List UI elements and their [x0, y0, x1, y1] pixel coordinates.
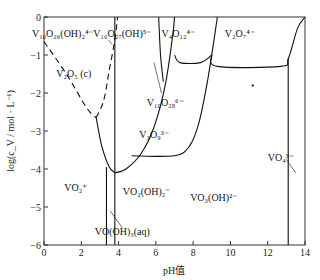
y-axis-title: log(c_V / mol · L⁻¹)	[5, 90, 17, 172]
region-label: VO₂⁺	[64, 182, 87, 193]
region-label: V₁₀O₂₈⁶⁻	[147, 97, 184, 108]
y-tick-label: −6	[30, 240, 41, 251]
x-tick-label: 10	[225, 247, 235, 258]
decavanadate-parabola-right	[115, 17, 175, 173]
y-tick-label: −2	[30, 88, 41, 99]
x-tick-label: 6	[153, 247, 158, 258]
y-tick-label: −5	[30, 202, 41, 213]
x-tick-label: 14	[300, 247, 310, 258]
region-label: VO₄³⁻	[268, 152, 294, 163]
region-label: V₁₀O₂₇(OH)⁵⁻	[93, 28, 151, 40]
x-tick-label: 0	[42, 247, 47, 258]
plot-frame	[44, 17, 305, 245]
x-tick-label: 12	[263, 247, 273, 258]
region-label: V₃O₉³⁻	[139, 129, 168, 140]
region-label: VO₃(OH)²⁻	[190, 192, 237, 204]
region-label: V₁₀O₂₆(OH)₂⁴⁻	[32, 28, 93, 40]
x-tick-label: 4	[116, 247, 121, 258]
region-label: VO₂(OH)₂⁻	[123, 186, 171, 198]
region-label: V₂O₇⁴⁻	[225, 28, 255, 39]
v2o7-lower-boundary	[211, 17, 305, 68]
boundaries	[44, 17, 305, 245]
region-labels: V₁₀O₂₆(OH)₂⁴⁻V₁₀O₂₇(OH)⁵⁻V₄O₁₂⁴⁻V₂O₇⁴⁻V₂…	[32, 28, 294, 238]
y-tick-label: 0	[36, 12, 41, 23]
y-tick-label: −3	[30, 126, 41, 137]
region-label: V₄O₁₂⁴⁻	[162, 28, 195, 39]
y-tick-label: −1	[30, 50, 41, 61]
region-label: VO(OH)₃(aq)	[95, 226, 150, 238]
axes: 024681012140−1−2−3−4−5−6	[30, 12, 310, 259]
v4o12-v10o28-boundary	[175, 55, 212, 64]
v10o27-v10o28-boundary	[159, 17, 164, 82]
dot-marker	[252, 84, 254, 86]
x-tick-label: 2	[79, 247, 84, 258]
y-tick-label: −4	[30, 164, 41, 175]
v10o26-leader	[108, 40, 112, 45]
v2o5-solubility-left	[44, 42, 96, 118]
x-axis-title: pH值	[163, 264, 185, 276]
v10o28-leader	[154, 63, 161, 93]
decavanadate-parabola-left	[96, 118, 115, 173]
x-tick-label: 8	[191, 247, 196, 258]
region-label: V₂O₅ (c)	[56, 68, 91, 80]
pourbaix-chart: 024681012140−1−2−3−4−5−6 V₁₀O₂₆(OH)₂⁴⁻V₁…	[0, 0, 320, 280]
